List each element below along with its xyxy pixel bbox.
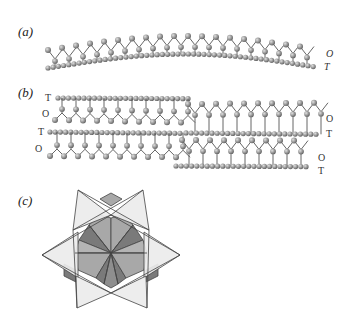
atomic-layers xyxy=(45,33,328,169)
triangle-left xyxy=(42,232,78,278)
figure-canvas xyxy=(0,0,350,311)
triangle-right xyxy=(144,232,180,278)
polyhedral-diagram xyxy=(42,190,180,308)
